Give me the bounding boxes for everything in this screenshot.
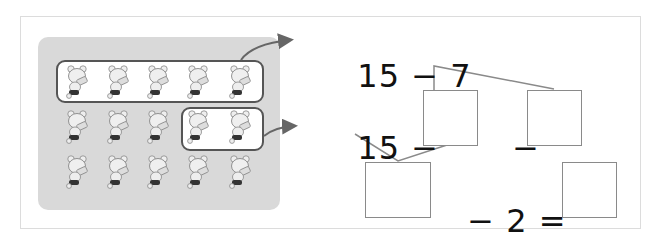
answer-box-split-second[interactable] — [527, 90, 582, 146]
arrow-icon — [264, 126, 294, 136]
answer-box-split-first[interactable] — [423, 90, 478, 146]
eq1-left: 15 — [357, 57, 400, 95]
arrow-icon — [241, 40, 290, 60]
equation-line3: − 2 = — [445, 173, 567, 237]
answer-box-intermediate[interactable] — [365, 162, 431, 218]
answer-box-result[interactable] — [562, 162, 617, 218]
equation-line1: 15 − 7 — [335, 28, 472, 92]
eq3-op: − — [467, 202, 495, 240]
eq3-value: 2 — [506, 202, 527, 240]
